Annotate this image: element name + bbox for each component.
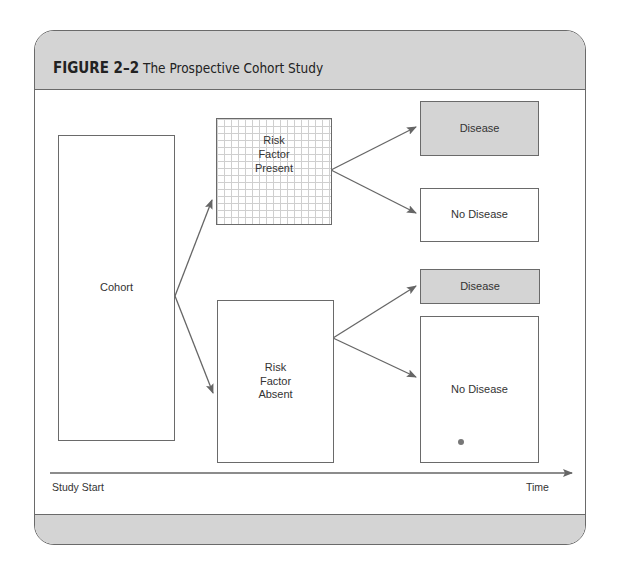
speck-dot	[458, 439, 464, 445]
absent-disease-label: Disease	[460, 280, 500, 294]
risk-factor-absent-box: Risk Factor Absent	[217, 300, 334, 463]
arrow-present-to-disease	[331, 127, 416, 170]
risk-factor-present-label: Risk Factor Present	[255, 134, 293, 175]
risk-factor-present-box: Risk Factor Present	[216, 118, 332, 225]
cohort-label: Cohort	[100, 281, 133, 295]
absent-no-disease-label: No Disease	[451, 383, 508, 397]
arrow-present-to-no-disease	[331, 170, 416, 213]
present-no-disease-box: No Disease	[420, 188, 539, 242]
arrow-absent-to-no-disease	[333, 338, 416, 377]
present-disease-box: Disease	[420, 101, 539, 156]
absent-no-disease-box: No Disease	[420, 316, 539, 463]
cohort-box: Cohort	[58, 135, 175, 441]
risk-factor-absent-label: Risk Factor Absent	[258, 361, 292, 402]
present-disease-label: Disease	[460, 122, 500, 136]
arrow-cohort-to-absent	[175, 296, 213, 393]
arrow-absent-to-disease	[333, 286, 416, 338]
absent-disease-box: Disease	[420, 269, 540, 304]
time-label: Time	[526, 481, 549, 493]
arrow-cohort-to-present	[175, 200, 212, 296]
present-no-disease-label: No Disease	[451, 208, 508, 222]
study-start-label: Study Start	[52, 481, 104, 493]
